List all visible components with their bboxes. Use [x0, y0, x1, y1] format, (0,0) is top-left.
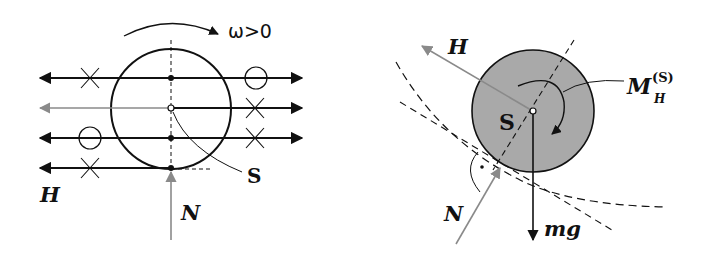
rotation-label: ω>0 [228, 20, 272, 42]
center-point [530, 108, 536, 114]
point-dot [168, 75, 174, 81]
point-dot [168, 135, 174, 141]
center-leader-line [173, 112, 242, 172]
normal-force-label: N [443, 201, 464, 226]
right-angle-arc [470, 152, 480, 192]
right-angle-dot [480, 165, 484, 169]
moment-label-subscript: H [653, 92, 666, 106]
center-label: S [247, 164, 261, 188]
moment-label: M [626, 73, 652, 99]
cross-markers [81, 68, 264, 178]
normal-force-label: N [180, 200, 201, 225]
rotation-arrow-icon [124, 23, 218, 36]
moment-label-superscript: (S) [652, 70, 674, 85]
weight-label: mg [544, 216, 581, 241]
center-point [168, 105, 174, 111]
horizontal-force-label: H [39, 182, 61, 207]
right-panel: H M (S) H S mg N [396, 34, 674, 244]
center-label: S [499, 109, 515, 135]
left-panel: ω>0 S [39, 20, 302, 240]
horizontal-force-label: H [447, 34, 469, 59]
figure-canvas: ω>0 S [0, 0, 708, 258]
contact-point [168, 165, 174, 171]
